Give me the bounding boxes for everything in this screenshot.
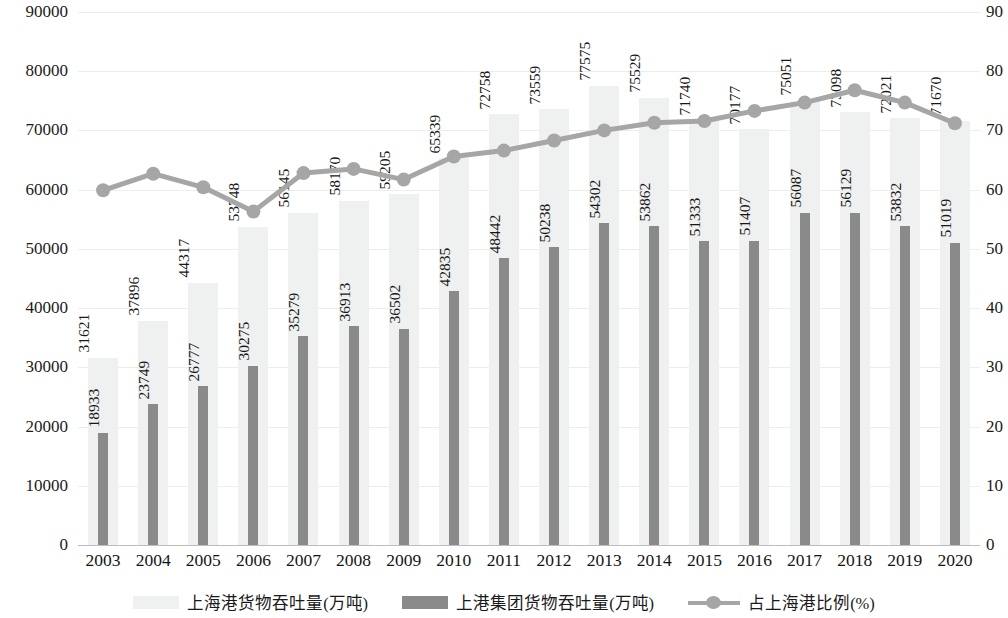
line-marker (697, 114, 711, 128)
line-marker (948, 116, 962, 130)
x-axis-tick-label: 2012 (529, 552, 579, 570)
y-right-tick-label: 40 (986, 299, 1003, 316)
x-axis-tick-label: 2005 (178, 552, 228, 570)
line-marker (898, 96, 912, 110)
legend-item[interactable]: 上海港货物吞吐量(万吨) (133, 590, 368, 614)
legend-dot-icon (706, 596, 721, 609)
legend-label: 上海港货物吞吐量(万吨) (187, 590, 368, 614)
line-marker (96, 183, 110, 197)
y-right-tick-label: 80 (986, 62, 1003, 79)
line-marker (347, 162, 361, 176)
line-marker (547, 134, 561, 148)
y-right-tick-label: 10 (986, 477, 1003, 494)
y-right-tick-label: 60 (986, 181, 1003, 198)
line-marker (447, 150, 461, 164)
y-left-tick-label: 30000 (0, 358, 68, 375)
plot-area: 3162118933378962374944317267775374830275… (78, 12, 980, 545)
y-right-tick-label: 0 (986, 536, 995, 553)
y-left-tick-label: 80000 (0, 62, 68, 79)
y-left-tick-label: 90000 (0, 3, 68, 20)
y-left-tick-label: 60000 (0, 181, 68, 198)
legend-label: 占上海港比例(%) (748, 590, 875, 614)
line-series-layer (78, 12, 980, 545)
line-marker (798, 96, 812, 110)
chart-root: 0100002000030000400005000060000700008000… (0, 0, 1008, 618)
x-axis-tick-label: 2010 (429, 552, 479, 570)
x-axis-tick-label: 2006 (228, 552, 278, 570)
line-marker (647, 116, 661, 130)
y-right-tick-label: 30 (986, 358, 1003, 375)
y-left-tick-label: 50000 (0, 240, 68, 257)
x-axis-tick-label: 2008 (329, 552, 379, 570)
line-marker (196, 180, 210, 194)
chart-legend: 上海港货物吞吐量(万吨)上港集团货物吞吐量(万吨)占上海港比例(%) (0, 590, 1008, 614)
line-marker (597, 123, 611, 137)
line-marker (146, 167, 160, 181)
x-axis-tick-label: 2019 (880, 552, 930, 570)
legend-label: 上港集团货物吞吐量(万吨) (456, 590, 654, 614)
y-right-tick-label: 50 (986, 240, 1003, 257)
x-axis-tick-label: 2020 (930, 552, 980, 570)
y-left-tick-label: 40000 (0, 299, 68, 316)
x-axis-tick-label: 2016 (729, 552, 779, 570)
y-left-tick-label: 20000 (0, 418, 68, 435)
y-right-tick-label: 70 (986, 121, 1003, 138)
x-axis-tick-label: 2011 (479, 552, 529, 570)
line-marker (397, 173, 411, 187)
x-axis-tick-label: 2003 (78, 552, 128, 570)
x-axis-tick-label: 2017 (780, 552, 830, 570)
x-axis-tick-label: 2013 (579, 552, 629, 570)
y-left-tick-label: 0 (0, 536, 68, 553)
line-marker (497, 144, 511, 158)
y-left-tick-label: 70000 (0, 121, 68, 138)
line-marker (748, 104, 762, 118)
legend-item[interactable]: 占上海港比例(%) (688, 590, 875, 614)
line-marker (848, 83, 862, 97)
x-axis-tick-label: 2004 (128, 552, 178, 570)
gridline (78, 545, 980, 546)
x-axis-tick-label: 2007 (278, 552, 328, 570)
light-bar-swatch-icon (133, 596, 179, 609)
line-marker (297, 166, 311, 180)
legend-item[interactable]: 上港集团货物吞吐量(万吨) (402, 590, 654, 614)
y-left-tick-label: 10000 (0, 477, 68, 494)
x-axis-tick-label: 2009 (379, 552, 429, 570)
line-marker-swatch-icon (688, 595, 740, 609)
x-axis-tick-label: 2018 (830, 552, 880, 570)
y-right-tick-label: 20 (986, 418, 1003, 435)
x-axis-tick-label: 2014 (629, 552, 679, 570)
dark-bar-swatch-icon (402, 596, 448, 609)
line-marker (246, 205, 260, 219)
y-right-tick-label: 90 (986, 3, 1003, 20)
ratio-line (103, 90, 955, 211)
x-axis-tick-label: 2015 (679, 552, 729, 570)
